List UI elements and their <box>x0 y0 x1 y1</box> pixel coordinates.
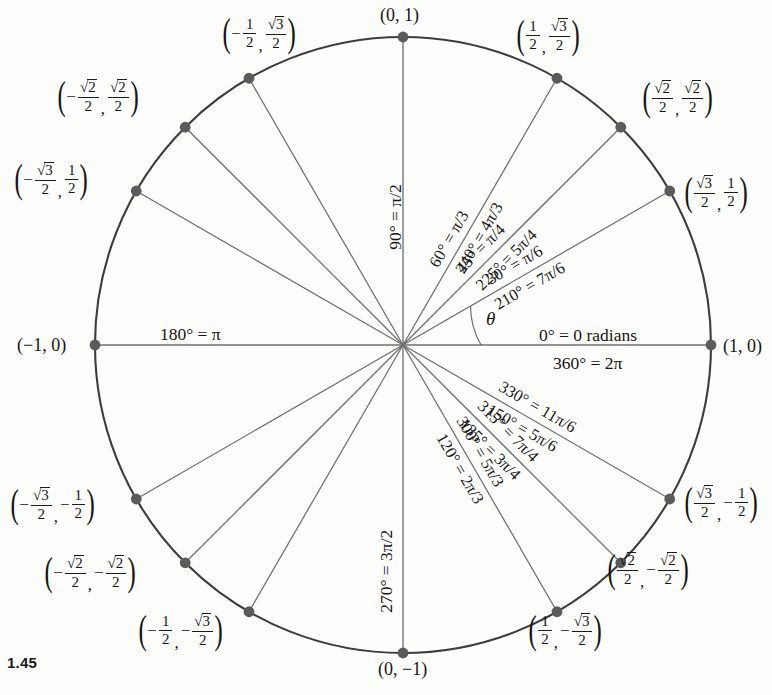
fraction: √22 <box>77 79 100 115</box>
coordinate-text: (−1, 0) <box>16 336 67 354</box>
point-270 <box>398 648 409 659</box>
fraction: √22 <box>657 552 680 588</box>
unit-circle-figure: 0° = 0 radians 360° = 2π 180° = π 90° = … <box>0 0 772 695</box>
fraction: 12 <box>723 176 739 211</box>
comma: , <box>674 101 681 118</box>
fraction-denominator: 2 <box>526 35 540 53</box>
fraction-denominator: 2 <box>108 97 129 115</box>
minus-sign: − <box>231 25 242 42</box>
fraction-numerator: √3 <box>266 16 287 34</box>
left-paren: ( <box>643 81 651 114</box>
coordinate-label-45: (√22,√22) <box>642 80 713 116</box>
fraction: √32 <box>548 18 571 54</box>
fraction-denominator: 2 <box>35 180 56 198</box>
comma: , <box>257 37 264 54</box>
minus-sign: − <box>723 494 734 511</box>
point-90 <box>398 32 409 43</box>
right-paren: ) <box>215 614 223 647</box>
minus-sign: − <box>23 171 34 188</box>
right-paren: ) <box>288 17 296 50</box>
point-225 <box>180 557 191 568</box>
coordinate-text: (1, 0) <box>722 337 763 355</box>
fraction-numerator: √3 <box>572 613 593 631</box>
fraction-numerator: √2 <box>65 555 86 573</box>
fraction: 12 <box>64 163 80 198</box>
comma: , <box>87 576 94 593</box>
minus-sign: − <box>94 564 105 581</box>
fraction: √22 <box>681 80 704 116</box>
coordinate-label-270: (0, −1) <box>377 660 428 678</box>
comma: , <box>57 183 64 200</box>
fraction-denominator: 2 <box>658 570 679 588</box>
coordinate-label-30: (√32,12) <box>684 175 748 211</box>
minus-sign: − <box>147 622 158 639</box>
fraction-numerator: 1 <box>527 19 539 36</box>
point-30 <box>664 186 675 197</box>
fraction-denominator: 2 <box>617 570 638 588</box>
right-paren: ) <box>80 163 88 196</box>
fraction-numerator: √3 <box>35 162 56 180</box>
coordinate-label-300: (12,−√32) <box>528 613 603 649</box>
fraction: 12 <box>734 486 750 521</box>
fraction-denominator: 2 <box>65 179 79 197</box>
fraction: √32 <box>265 16 288 52</box>
fraction-numerator: 1 <box>725 176 737 193</box>
fraction: √32 <box>693 175 716 211</box>
minus-sign: − <box>19 496 30 513</box>
comma: , <box>541 39 548 56</box>
fraction-denominator: 2 <box>159 630 173 648</box>
fraction-denominator: 2 <box>694 503 715 521</box>
left-paren: ( <box>517 19 525 52</box>
left-paren: ( <box>11 488 19 521</box>
ray-135 <box>185 127 403 345</box>
fraction-denominator: 2 <box>538 630 552 648</box>
fraction: 12 <box>158 614 174 649</box>
ray-60 <box>403 78 557 345</box>
fraction: √22 <box>616 552 639 588</box>
coordinate-label-240: (−12,−√32) <box>138 613 223 649</box>
left-paren: ( <box>45 556 53 589</box>
axis-label-180: 180° = π <box>160 326 221 344</box>
fraction-denominator: 2 <box>243 33 257 51</box>
fraction-numerator: √3 <box>549 18 570 36</box>
fraction-numerator: 1 <box>736 486 748 503</box>
fraction: 12 <box>242 17 258 52</box>
minus-sign: − <box>560 622 571 639</box>
fraction-numerator: √2 <box>106 555 127 573</box>
point-150 <box>131 186 142 197</box>
fraction-numerator: 1 <box>73 488 85 505</box>
fraction-numerator: √2 <box>682 80 703 98</box>
theta-arc <box>471 306 481 345</box>
coordinate-label-210: (−√32,−12) <box>10 487 95 523</box>
ray-315 <box>403 345 621 563</box>
comma: , <box>53 508 60 525</box>
point-210 <box>131 494 142 505</box>
ray-225 <box>185 345 403 563</box>
theta-label: θ <box>486 308 495 330</box>
minus-sign: − <box>181 622 192 639</box>
coordinate-label-60: (12,√32) <box>516 18 580 54</box>
coordinate-text: (0, 1) <box>379 6 420 24</box>
fraction-numerator: √2 <box>108 79 129 97</box>
fraction-numerator: √3 <box>192 613 213 631</box>
ray-150 <box>136 191 403 345</box>
point-60 <box>552 73 563 84</box>
fraction-denominator: 2 <box>106 573 127 591</box>
right-paren: ) <box>130 80 138 113</box>
fraction-denominator: 2 <box>572 631 593 649</box>
comma: , <box>553 634 560 651</box>
coordinate-label-225: (−√22,−√22) <box>44 555 137 591</box>
fraction-denominator: 2 <box>72 504 86 522</box>
point-0 <box>706 340 717 351</box>
coordinate-label-120: (−12,√32) <box>222 16 297 52</box>
fraction-denominator: 2 <box>192 631 213 649</box>
fraction: √32 <box>191 613 214 649</box>
axis-label-360: 360° = 2π <box>553 355 622 373</box>
minus-sign: − <box>646 561 657 578</box>
fraction-denominator: 2 <box>65 573 86 591</box>
left-paren: ( <box>529 614 537 647</box>
right-paren: ) <box>128 556 136 589</box>
left-paren: ( <box>58 80 66 113</box>
left-paren: ( <box>223 17 231 50</box>
minus-sign: − <box>66 88 77 105</box>
